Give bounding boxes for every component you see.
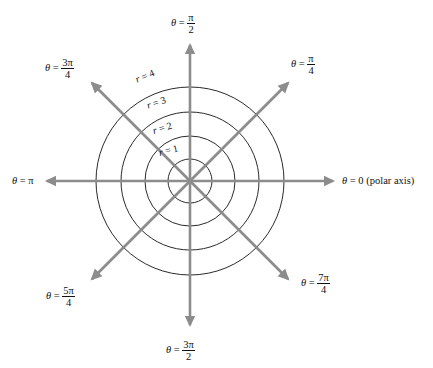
polar-axis-note: (polar axis) <box>364 175 415 186</box>
fraction-numerator: 7π <box>317 272 330 284</box>
fraction-numerator: 3π <box>61 57 74 69</box>
fraction-denominator: 2 <box>182 351 195 362</box>
label-theta-pi-over-2: θ = π2 <box>171 12 195 35</box>
label-theta-pi-over-4: θ = π4 <box>291 53 315 76</box>
fraction-numerator: 5π <box>62 285 75 297</box>
label-theta-3pi-over-4: θ = 3π4 <box>45 57 74 80</box>
fraction-3pi-over-2: 3π2 <box>182 339 195 362</box>
fraction-denominator: 4 <box>61 69 74 80</box>
label-theta-pi: θ = π <box>12 176 34 187</box>
fraction-denominator: 4 <box>307 65 314 76</box>
label-theta-5pi-over-4: θ = 5π4 <box>46 285 75 308</box>
fraction-numerator: π <box>187 12 194 24</box>
theta-value: π <box>28 175 33 186</box>
equals-sign: = <box>171 344 182 355</box>
fraction-denominator: 4 <box>317 284 330 295</box>
label-theta-3pi-over-2: θ = 3π2 <box>166 339 195 362</box>
polar-axes <box>47 45 333 325</box>
equals-sign: = <box>50 62 61 73</box>
fraction-7pi-over-4: 7π4 <box>317 272 330 295</box>
fraction-numerator: π <box>307 53 314 65</box>
axis-theta-5pi-over-4-line <box>92 181 190 279</box>
fraction-pi-over-2: π2 <box>187 12 194 35</box>
label-theta-7pi-over-4: θ = 7π4 <box>301 272 330 295</box>
fraction-pi-over-4: π4 <box>307 53 314 76</box>
equals-sign: = <box>296 58 307 69</box>
fraction-denominator: 4 <box>62 297 75 308</box>
equals-sign: = <box>17 175 28 186</box>
equals-sign: = <box>176 17 187 28</box>
axis-theta-pi-over-4-line <box>190 83 288 181</box>
equals-sign: = <box>306 277 317 288</box>
equals-sign: = <box>51 290 62 301</box>
fraction-numerator: 3π <box>182 339 195 351</box>
axis-theta-7pi-over-4-line <box>190 181 288 279</box>
fraction-3pi-over-4: 3π4 <box>61 57 74 80</box>
fraction-5pi-over-4: 5π4 <box>62 285 75 308</box>
axis-theta-3pi-over-4-line <box>92 83 190 181</box>
fraction-denominator: 2 <box>187 24 194 35</box>
label-theta-zero: θ = 0 (polar axis) <box>342 176 414 187</box>
equals-sign: = <box>347 175 358 186</box>
